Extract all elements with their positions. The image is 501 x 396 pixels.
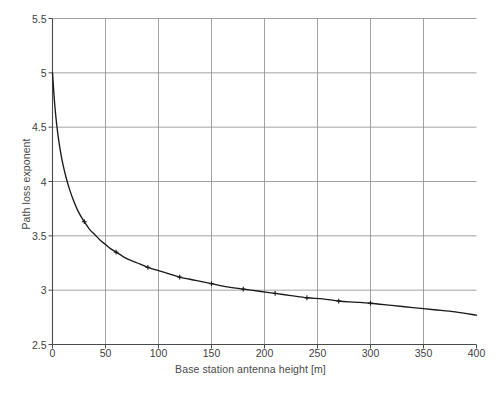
path-loss-exponent-chart (0, 0, 501, 396)
x-tick-label: 300 (362, 347, 380, 359)
x-tick-label: 200 (256, 347, 274, 359)
data-point-markers (82, 219, 373, 305)
x-tick-label: 150 (203, 347, 221, 359)
y-axis-title: Path loss exponent (20, 114, 32, 254)
y-tick-label: 2.5 (9, 339, 47, 351)
figure-container: 050100150200250300350400 2.533.544.555.5… (0, 0, 501, 396)
x-axis-title: Base station antenna height [m] (0, 363, 501, 375)
x-tick-label: 350 (415, 347, 433, 359)
x-tick-label: 400 (468, 347, 486, 359)
y-tick-label: 3 (9, 284, 47, 296)
x-tick-label: 250 (309, 347, 327, 359)
x-tick-label: 0 (50, 347, 56, 359)
axis-ticks (49, 19, 477, 349)
y-tick-label: 5 (9, 67, 47, 79)
gridlines (53, 19, 477, 345)
y-tick-label: 5.5 (9, 13, 47, 25)
x-tick-label: 100 (150, 347, 168, 359)
x-tick-label: 50 (100, 347, 112, 359)
